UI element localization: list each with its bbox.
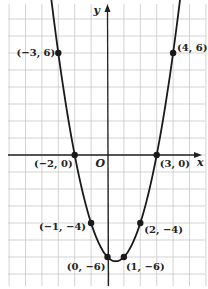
data-point [88, 220, 94, 226]
y-axis-label: y [93, 4, 102, 17]
point-labels: (−3, 6)(−2, 0)(−1, −4)(0, −6)(1, −6)(2, … [17, 42, 208, 273]
point-label: (−1, −4) [39, 221, 86, 233]
point-label: (1, −6) [126, 261, 165, 273]
origin-label: O [96, 157, 106, 170]
data-point [121, 254, 127, 260]
parabola-graph: (−3, 6)(−2, 0)(−1, −4)(0, −6)(1, −6)(2, … [0, 0, 208, 289]
data-point [104, 254, 110, 260]
point-label: (4, 6) [177, 42, 207, 54]
data-point [55, 50, 61, 56]
y-axis-arrow-icon [105, 4, 111, 12]
data-point [170, 50, 176, 56]
point-label: (3, 0) [160, 158, 190, 170]
x-axis-label: x [196, 156, 204, 169]
point-label: (0, −6) [67, 261, 106, 273]
point-label: (−2, 0) [34, 158, 73, 170]
point-label: (2, −4) [144, 224, 183, 236]
data-point [137, 220, 143, 226]
point-label: (−3, 6) [17, 47, 56, 59]
